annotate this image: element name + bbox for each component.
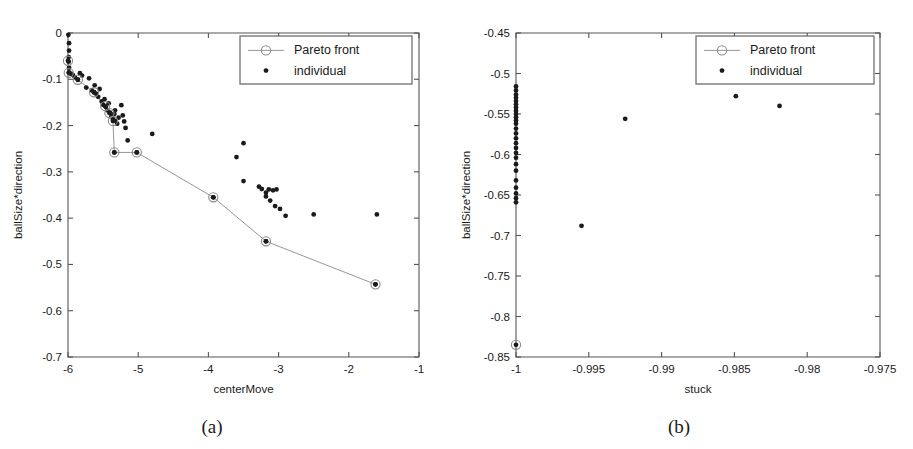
x-tick-label: -3 [273, 363, 283, 375]
y-tick-label: -0.6 [490, 149, 510, 161]
individual-point [514, 191, 519, 196]
scatter-plot-b: -1-0.995-0.99-0.985-0.98-0.975-0.45-0.5-… [453, 0, 913, 449]
y-tick-label: -0.8 [490, 311, 510, 323]
individual-point [268, 198, 273, 203]
individual-point [266, 187, 271, 192]
individual-point [514, 150, 519, 155]
pareto-front-point-dot [75, 77, 80, 82]
pareto-front-line [68, 61, 375, 285]
individual-point [67, 48, 72, 53]
y-tick-label: -0.45 [484, 27, 510, 39]
y-tick-label: -0.7 [490, 230, 510, 242]
x-tick-label: -1 [414, 363, 424, 375]
pareto-front-point-dot [264, 239, 269, 244]
individual-point [623, 116, 628, 121]
y-tick-label: -0.7 [42, 351, 62, 363]
individual-point [733, 94, 738, 99]
x-tick-label: -0.98 [794, 363, 820, 375]
pareto-front-point-dot [112, 150, 117, 155]
y-tick-label: 0 [56, 27, 62, 39]
individual-point [514, 126, 519, 131]
pareto-front-point-dot [66, 70, 71, 75]
y-axis-label: ballSize*direction [460, 151, 472, 239]
individual-point [514, 121, 519, 126]
individual-point [374, 212, 379, 217]
pareto-front-point-dot [66, 58, 71, 63]
individual-point [92, 83, 97, 88]
x-tick-label: -4 [203, 363, 214, 375]
x-axis-label: centerMove [213, 383, 273, 395]
individual-point [119, 103, 124, 108]
panel-b: -1-0.995-0.99-0.985-0.98-0.975-0.45-0.5-… [453, 0, 913, 449]
legend-individual-label: individual [750, 64, 802, 78]
legend-pareto-label: Pareto front [294, 43, 360, 57]
y-tick-label: -0.85 [484, 351, 510, 363]
pareto-front-point-dot [107, 111, 112, 116]
scatter-plot-a: -6-5-4-3-2-10-0.1-0.2-0.3-0.4-0.5-0.6-0.… [0, 0, 453, 449]
individual-point [514, 185, 519, 190]
individual-point [241, 179, 246, 184]
individual-point [514, 200, 519, 205]
x-axis-label: stuck [685, 383, 712, 395]
legend-pareto-label: Pareto front [750, 43, 816, 57]
individual-point [122, 119, 127, 124]
y-tick-label: -0.6 [42, 305, 62, 317]
y-tick-label: -0.3 [42, 166, 62, 178]
pareto-front-point-dot [92, 90, 97, 95]
pareto-front-point-dot [111, 119, 116, 124]
individual-point [579, 223, 584, 228]
figure-root: -6-5-4-3-2-10-0.1-0.2-0.3-0.4-0.5-0.6-0.… [0, 0, 913, 449]
x-tick-label: -1 [511, 363, 521, 375]
x-tick-label: -6 [63, 363, 73, 375]
individual-point [264, 194, 269, 199]
individual-point [84, 85, 89, 90]
individual-point [514, 168, 519, 173]
y-tick-label: -0.1 [42, 73, 62, 85]
legend-individual-marker [720, 68, 725, 73]
pareto-front-point-dot [134, 150, 139, 155]
y-tick-label: -0.2 [42, 120, 62, 132]
y-tick-label: -0.5 [490, 68, 510, 80]
x-tick-label: -2 [344, 363, 354, 375]
individual-point [278, 206, 283, 211]
individual-point [514, 162, 519, 167]
pareto-front-point-dot [211, 195, 216, 200]
individual-point [283, 213, 288, 218]
individual-point [514, 178, 519, 183]
x-tick-label: -0.975 [864, 363, 897, 375]
x-tick-label: -0.995 [572, 363, 605, 375]
individual-point [125, 138, 130, 143]
individual-point [87, 76, 92, 81]
pareto-front-point-dot [514, 342, 519, 347]
individual-point [102, 97, 107, 102]
individual-point [259, 187, 264, 192]
y-tick-label: -0.4 [42, 212, 62, 224]
individual-point [150, 132, 155, 137]
individual-point [234, 155, 239, 160]
y-tick-label: -0.5 [42, 258, 62, 270]
individual-point [777, 104, 782, 109]
y-tick-label: -0.65 [484, 189, 510, 201]
pareto-front-point-dot [103, 104, 108, 109]
individual-point [514, 141, 519, 146]
individual-point [67, 41, 72, 46]
y-axis-label: ballSize*direction [12, 151, 24, 239]
individual-point [514, 155, 519, 160]
individual-point [311, 212, 316, 217]
pareto-front-point-dot [373, 282, 378, 287]
x-tick-label: -0.985 [718, 363, 751, 375]
individual-point [514, 131, 519, 136]
individual-point [514, 146, 519, 151]
individual-point [514, 136, 519, 141]
legend-individual-label: individual [294, 64, 346, 78]
individual-point [274, 187, 279, 192]
x-tick-label: -5 [133, 363, 143, 375]
individual-point [120, 113, 125, 118]
x-tick-label: -0.99 [648, 363, 674, 375]
individual-point [273, 204, 278, 209]
individual-point [66, 32, 71, 37]
panel-a: -6-5-4-3-2-10-0.1-0.2-0.3-0.4-0.5-0.6-0.… [0, 0, 453, 449]
panel-caption: (a) [201, 416, 222, 438]
individual-point [123, 125, 128, 130]
legend-individual-marker [264, 68, 269, 73]
